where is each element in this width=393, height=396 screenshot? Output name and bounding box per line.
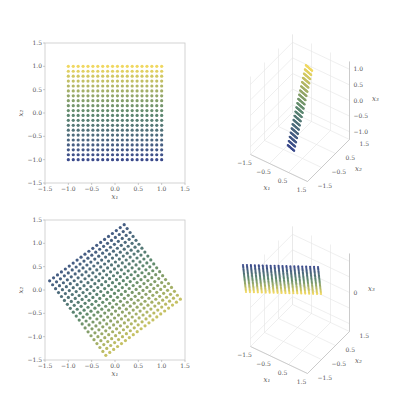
data-point bbox=[136, 129, 139, 132]
data-point bbox=[140, 99, 143, 102]
data-point bbox=[99, 339, 102, 342]
data-point bbox=[140, 89, 143, 92]
data-point bbox=[96, 89, 99, 92]
data-point bbox=[117, 264, 120, 267]
data-point bbox=[81, 134, 84, 137]
data-point bbox=[140, 119, 143, 122]
data-point bbox=[111, 330, 114, 333]
data-point bbox=[113, 316, 116, 319]
data-point bbox=[120, 293, 123, 296]
data-point bbox=[150, 89, 153, 92]
data-point bbox=[302, 112, 304, 114]
data-point bbox=[86, 138, 89, 141]
data-point bbox=[99, 241, 102, 244]
data-point bbox=[54, 287, 57, 290]
data-point bbox=[96, 104, 99, 107]
grid-lines bbox=[251, 227, 350, 374]
data-point bbox=[106, 148, 109, 151]
data-point bbox=[146, 254, 149, 257]
data-point bbox=[111, 79, 114, 82]
data-point bbox=[139, 278, 142, 281]
data-point bbox=[127, 294, 130, 297]
data-point bbox=[160, 65, 163, 68]
data-point bbox=[91, 99, 94, 102]
data-point bbox=[67, 119, 70, 122]
data-point bbox=[118, 282, 121, 285]
data-point bbox=[145, 94, 148, 97]
data-point bbox=[160, 138, 163, 141]
data-point bbox=[67, 129, 70, 132]
data-point bbox=[121, 153, 124, 156]
data-point bbox=[127, 245, 130, 248]
data-point bbox=[128, 262, 131, 265]
data-point bbox=[136, 250, 139, 253]
data-point bbox=[86, 119, 89, 122]
data-point bbox=[120, 342, 123, 345]
data-point bbox=[72, 104, 75, 107]
data-point bbox=[106, 340, 109, 343]
data-point bbox=[136, 65, 139, 68]
data-point bbox=[130, 273, 133, 276]
data-point bbox=[96, 124, 99, 127]
data-point bbox=[116, 124, 119, 127]
data-point bbox=[111, 119, 114, 122]
data-point bbox=[140, 148, 143, 151]
data-point bbox=[111, 232, 114, 235]
data-point bbox=[143, 275, 146, 278]
data-point bbox=[140, 134, 143, 137]
data-point bbox=[86, 281, 89, 284]
data-point bbox=[106, 84, 109, 87]
data-point bbox=[106, 109, 109, 112]
data-point bbox=[136, 89, 139, 92]
data-point bbox=[164, 278, 167, 281]
data-point bbox=[101, 79, 104, 82]
data-point bbox=[111, 94, 114, 97]
data-point bbox=[163, 309, 166, 312]
data-point bbox=[100, 332, 103, 335]
data-point bbox=[116, 134, 119, 137]
y-axis-label: x₂ bbox=[17, 109, 25, 116]
data-point bbox=[136, 70, 139, 73]
data-point bbox=[131, 235, 134, 238]
data-point bbox=[140, 84, 143, 87]
data-point bbox=[87, 323, 90, 326]
data-point bbox=[155, 148, 158, 151]
data-point bbox=[113, 341, 116, 344]
data-point bbox=[112, 274, 115, 277]
data-point bbox=[96, 158, 99, 161]
data-point bbox=[77, 138, 80, 141]
data-point bbox=[160, 104, 163, 107]
data-point bbox=[145, 138, 148, 141]
data-point bbox=[106, 99, 109, 102]
data-point bbox=[84, 326, 87, 329]
data-point bbox=[91, 134, 94, 137]
data-point bbox=[130, 249, 133, 252]
data-point bbox=[91, 247, 94, 250]
data-point bbox=[303, 108, 305, 110]
data-point bbox=[145, 79, 148, 82]
data-point bbox=[67, 104, 70, 107]
data-point bbox=[92, 289, 95, 292]
data-point bbox=[176, 294, 179, 297]
data-point bbox=[169, 293, 172, 296]
data-point bbox=[91, 143, 94, 146]
data-point bbox=[72, 70, 75, 73]
data-point bbox=[91, 65, 94, 68]
data-point bbox=[140, 65, 143, 68]
data-point bbox=[134, 295, 137, 298]
data-point bbox=[69, 307, 72, 310]
data-point bbox=[106, 129, 109, 132]
data-point bbox=[249, 291, 251, 293]
data-point bbox=[146, 304, 149, 307]
data-point bbox=[101, 138, 104, 141]
data-point bbox=[101, 84, 104, 87]
data-point bbox=[121, 114, 124, 117]
data-point bbox=[97, 328, 100, 331]
data-point bbox=[155, 138, 158, 141]
data-point bbox=[116, 345, 119, 348]
data-point bbox=[136, 158, 139, 161]
data-point bbox=[164, 303, 167, 306]
x-tick-label: 1.0 bbox=[157, 185, 167, 192]
data-point bbox=[111, 306, 114, 309]
data-point bbox=[121, 134, 124, 137]
